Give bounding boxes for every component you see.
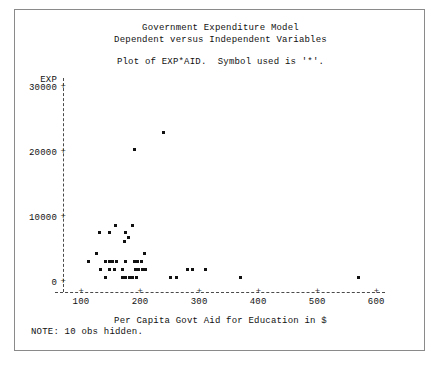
data-point — [239, 276, 242, 279]
scatter-plot: EXP +0+10000+20000+30000 +100+200+300+40… — [15, 10, 426, 352]
data-point — [113, 268, 116, 271]
data-point — [204, 268, 207, 271]
data-point — [186, 268, 189, 271]
x-tick-mark: + — [197, 288, 202, 297]
x-tick-label: 400 — [238, 297, 278, 307]
data-point — [135, 276, 138, 279]
x-axis-title: Per Capita Govt Aid for Education in $ — [15, 316, 426, 326]
data-point — [131, 276, 134, 279]
x-tick-mark: + — [315, 288, 320, 297]
x-tick-label: 100 — [61, 297, 101, 307]
data-point — [114, 224, 117, 227]
data-point — [127, 236, 130, 239]
data-point — [128, 276, 131, 279]
x-tick-label: 200 — [120, 297, 160, 307]
x-tick-label: 600 — [356, 297, 396, 307]
y-tick-label: 20000 — [13, 148, 57, 158]
data-point — [115, 260, 118, 263]
x-tick-label: 500 — [297, 297, 337, 307]
data-point — [87, 260, 90, 263]
data-point — [169, 276, 172, 279]
data-point — [131, 224, 134, 227]
data-point — [124, 231, 127, 234]
data-point — [108, 268, 111, 271]
output-page-frame: Government Expenditure Model Dependent v… — [14, 9, 425, 351]
x-axis-line — [55, 292, 385, 293]
y-tick-mark: + — [61, 213, 66, 222]
y-axis-line — [63, 78, 64, 292]
y-tick-label: 0 — [13, 278, 57, 288]
data-point — [124, 260, 127, 263]
x-tick-mark: + — [374, 288, 379, 297]
data-point — [99, 268, 102, 271]
data-point — [104, 260, 107, 263]
data-point — [121, 276, 124, 279]
data-point — [121, 268, 124, 271]
y-tick-label: 10000 — [13, 213, 57, 223]
y-tick-label: 30000 — [13, 83, 57, 93]
data-point — [140, 260, 143, 263]
data-point — [98, 231, 101, 234]
data-point — [144, 268, 147, 271]
data-point — [143, 252, 146, 255]
x-tick-mark: + — [79, 288, 84, 297]
data-point — [137, 268, 140, 271]
data-point — [175, 276, 178, 279]
data-point — [104, 276, 107, 279]
data-point — [162, 131, 165, 134]
x-tick-mark: + — [138, 288, 143, 297]
data-point — [134, 268, 137, 271]
x-tick-mark: + — [256, 288, 261, 297]
screenshot-root: Government Expenditure Model Dependent v… — [0, 0, 442, 370]
data-point — [111, 260, 114, 263]
y-tick-mark: + — [61, 148, 66, 157]
data-point — [108, 231, 111, 234]
note-text: NOTE: 10 obs hidden. — [31, 327, 143, 337]
data-point — [191, 268, 194, 271]
y-tick-mark: + — [61, 278, 66, 287]
data-point — [133, 148, 136, 151]
data-point — [141, 268, 144, 271]
y-tick-mark: + — [61, 83, 66, 92]
data-point — [123, 240, 126, 243]
data-point — [133, 260, 136, 263]
data-point — [357, 276, 360, 279]
x-tick-label: 300 — [179, 297, 219, 307]
data-point — [95, 252, 98, 255]
